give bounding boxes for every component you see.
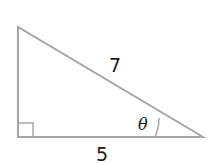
adjacent-side-label: 5	[96, 145, 108, 164]
triangle-diagram	[0, 0, 213, 165]
triangle-outline	[18, 27, 203, 137]
right-angle-marker	[18, 123, 33, 137]
angle-arc	[155, 118, 159, 137]
angle-theta-label: θ	[138, 117, 148, 133]
hypotenuse-label: 7	[109, 56, 121, 75]
